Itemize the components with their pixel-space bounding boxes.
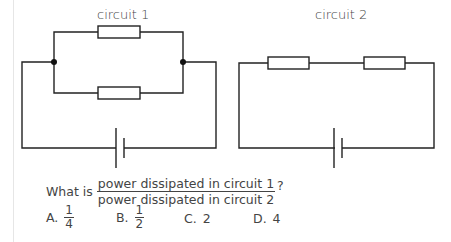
circuit-2-diagram <box>239 57 434 168</box>
question-prefix: What is <box>46 184 93 199</box>
junction-dot <box>51 59 57 65</box>
circuit-1-diagram <box>22 26 216 168</box>
question-text: What is power dissipated in circuit 1 po… <box>46 176 284 207</box>
option-denominator: 4 <box>65 218 73 231</box>
option-value: 2 <box>203 211 211 226</box>
option-value: 4 <box>273 211 281 226</box>
resistor-icon <box>268 57 309 69</box>
junction-dot <box>180 59 186 65</box>
resistor-icon <box>98 26 140 38</box>
option-denominator: 2 <box>136 218 144 231</box>
option-b[interactable]: B. 1 2 <box>116 204 144 231</box>
option-value: 1 2 <box>135 204 145 231</box>
option-value: 1 4 <box>64 204 74 231</box>
option-a[interactable]: A. 1 4 <box>46 204 74 231</box>
resistor-icon <box>98 87 140 99</box>
option-letter: D. <box>253 211 267 226</box>
option-letter: A. <box>46 210 58 225</box>
option-numerator: 1 <box>64 204 74 218</box>
option-letter: C. <box>184 211 197 226</box>
option-numerator: 1 <box>135 204 145 218</box>
fraction-numerator: power dissipated in circuit 1 <box>97 176 275 192</box>
question-mark: ? <box>277 178 284 193</box>
option-letter: B. <box>116 210 129 225</box>
resistor-icon <box>364 57 405 69</box>
power-ratio-fraction: power dissipated in circuit 1 power diss… <box>97 176 275 207</box>
option-d[interactable]: D. 4 <box>253 211 281 226</box>
option-c[interactable]: C. 2 <box>184 211 211 226</box>
